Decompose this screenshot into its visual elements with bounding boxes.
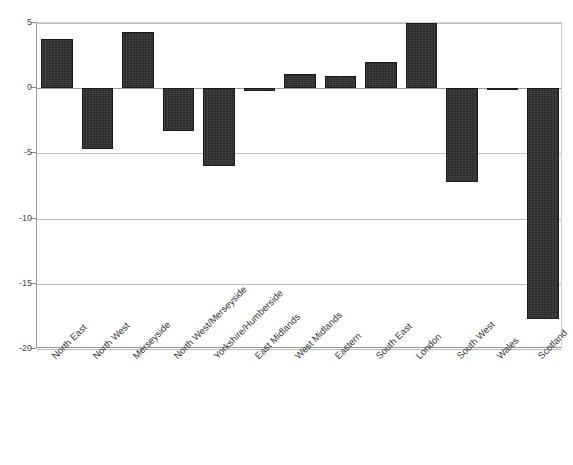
plot-area: [36, 22, 562, 348]
y-axis-tick-label: -15: [6, 278, 36, 287]
bar: [487, 88, 519, 90]
gridline-0: [37, 88, 561, 89]
bar: [41, 39, 73, 89]
gridline-neg15: [37, 284, 561, 285]
y-axis-tick-label: 5: [6, 18, 36, 27]
bar: [244, 88, 276, 91]
bar: [82, 88, 114, 149]
bar: [203, 88, 235, 166]
bar: [406, 23, 438, 88]
bar: [446, 88, 478, 182]
bar: [365, 62, 397, 88]
chart-container: 50-5-10-15-20 North EastNorth WestMersey…: [0, 0, 573, 465]
gridline-neg10: [37, 219, 561, 220]
y-axis-tick-label: -5: [6, 148, 36, 157]
y-axis-tick-label: 0: [6, 83, 36, 92]
bar: [122, 32, 154, 88]
y-axis-tick-label: -10: [6, 213, 36, 222]
gridline-neg5: [37, 153, 561, 154]
bar: [163, 88, 195, 131]
bar: [284, 74, 316, 88]
chart-title: [0, 0, 573, 2]
gridline-5: [37, 23, 561, 24]
x-axis: North EastNorth WestMerseysideNorth West…: [0, 348, 573, 465]
bar: [527, 88, 559, 319]
bar: [325, 76, 357, 88]
